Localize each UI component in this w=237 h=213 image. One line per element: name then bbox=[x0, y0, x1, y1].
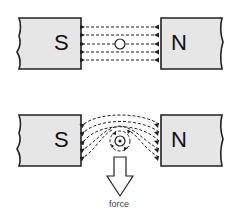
wire-cross-section-top bbox=[115, 39, 125, 49]
top-panel bbox=[17, 18, 223, 69]
north-pole-label-bottom: N bbox=[171, 127, 187, 153]
bottom-panel bbox=[17, 115, 223, 196]
south-magnet-top bbox=[17, 18, 81, 69]
field-arrows-right-top bbox=[154, 25, 159, 63]
current-out-of-page-dot-icon bbox=[118, 139, 121, 142]
south-pole-label-bottom: S bbox=[54, 127, 69, 153]
magnetic-force-diagram bbox=[0, 0, 237, 213]
north-pole-label-top: N bbox=[171, 30, 187, 56]
force-label: force bbox=[109, 199, 129, 209]
south-pole-label-top: S bbox=[54, 30, 69, 56]
force-arrow-icon bbox=[107, 157, 133, 196]
south-magnet-bottom bbox=[17, 115, 81, 166]
